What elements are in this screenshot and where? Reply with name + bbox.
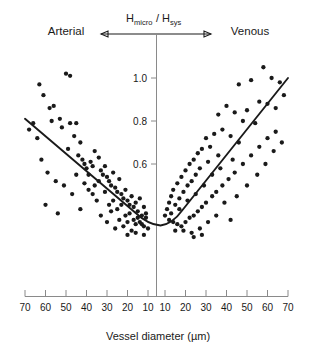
data-point: [200, 147, 204, 151]
data-point: [144, 211, 148, 215]
data-point: [241, 119, 245, 123]
data-point: [255, 173, 259, 177]
data-point: [173, 203, 177, 207]
data-point: [78, 207, 82, 211]
data-point: [204, 201, 208, 205]
data-point: [220, 183, 224, 187]
x-tick-label-venous: 60: [262, 302, 274, 313]
data-point: [99, 168, 103, 172]
data-point: [280, 140, 284, 144]
data-point: [105, 175, 109, 179]
data-point: [121, 224, 125, 228]
data-point: [129, 194, 133, 198]
data-point: [194, 173, 198, 177]
data-point: [134, 201, 138, 205]
ratio-sub-micro: micro: [134, 18, 152, 27]
ratio-h-sys: H: [162, 12, 170, 24]
x-tick-label-arterial: 40: [81, 302, 93, 313]
data-point: [210, 194, 214, 198]
data-point: [68, 74, 72, 78]
data-point: [265, 136, 269, 140]
data-point: [200, 205, 204, 209]
data-point: [245, 108, 249, 112]
data-point: [190, 179, 194, 183]
data-point: [58, 117, 62, 121]
data-point: [117, 177, 121, 181]
data-point: [132, 205, 136, 209]
data-point: [233, 170, 237, 174]
data-point: [74, 121, 78, 125]
data-point: [257, 145, 261, 149]
data-point: [216, 112, 220, 116]
data-point: [237, 82, 241, 86]
data-point: [125, 220, 129, 224]
arterial-data-points: [27, 72, 150, 238]
data-point: [119, 192, 123, 196]
data-point: [200, 233, 204, 237]
x-tick-label-arterial: 60: [40, 302, 52, 313]
x-tick-label-arterial: 30: [101, 302, 113, 313]
data-point: [140, 222, 144, 226]
x-tick-label-arterial: 10: [142, 302, 154, 313]
data-point: [86, 188, 90, 192]
data-point: [173, 229, 177, 233]
data-point: [72, 134, 76, 138]
data-point: [177, 196, 181, 200]
data-point: [111, 198, 115, 202]
x-tick-label-arterial: 50: [60, 302, 72, 313]
data-point: [125, 198, 129, 202]
data-point: [272, 149, 276, 153]
data-point: [226, 177, 230, 181]
data-point: [198, 166, 202, 170]
x-tick-label-venous: 20: [180, 302, 192, 313]
y-axis-ticks: 0.60.81.0: [133, 73, 156, 170]
data-point: [74, 173, 78, 177]
data-point: [163, 213, 167, 217]
data-point: [50, 119, 54, 123]
data-point: [175, 181, 179, 185]
x-tick-label-arterial: 20: [122, 302, 134, 313]
data-point: [129, 229, 133, 233]
data-point: [27, 127, 31, 131]
data-point: [37, 82, 41, 86]
data-point: [91, 192, 95, 196]
data-point: [190, 231, 194, 235]
data-point: [93, 183, 97, 187]
data-point: [249, 153, 253, 157]
venous-side-label: Venous: [231, 25, 270, 37]
y-tick-label: 0.6: [133, 159, 147, 170]
data-point: [39, 158, 43, 162]
data-point: [105, 220, 109, 224]
data-point: [101, 173, 105, 177]
data-point: [228, 218, 232, 222]
data-point: [181, 229, 185, 233]
data-point: [208, 145, 212, 149]
data-point: [274, 130, 278, 134]
arterial-side-label: Arterial: [48, 25, 84, 37]
data-point: [70, 192, 74, 196]
ratio-sub-sys: sys: [170, 18, 182, 27]
x-tick-label-venous: 40: [221, 302, 233, 313]
data-point: [107, 203, 111, 207]
data-point: [62, 183, 66, 187]
data-point: [179, 175, 183, 179]
data-point: [175, 222, 179, 226]
data-point: [115, 207, 119, 211]
y-tick-label: 0.8: [133, 116, 147, 127]
data-point: [274, 106, 278, 110]
data-point: [192, 158, 196, 162]
data-point: [99, 213, 103, 217]
data-point: [196, 209, 200, 213]
data-point: [121, 196, 125, 200]
data-point: [263, 162, 267, 166]
data-point: [134, 231, 138, 235]
data-point: [181, 190, 185, 194]
data-point: [64, 72, 68, 76]
ratio-axis-label: H micro / H sys: [126, 12, 182, 27]
data-point: [60, 125, 64, 129]
data-point: [183, 220, 187, 224]
data-point: [123, 213, 127, 217]
x-axis-title: Vessel diameter (µm): [106, 330, 210, 342]
data-point: [179, 224, 183, 228]
data-point: [41, 93, 45, 97]
